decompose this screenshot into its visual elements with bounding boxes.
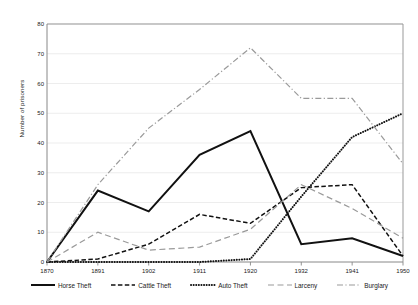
legend-label: Auto Theft [218, 282, 247, 289]
legend-swatch-dashdot [336, 281, 362, 289]
series-line-auto-theft [47, 113, 403, 262]
series-line-larceny [47, 185, 403, 262]
x-tick-label: 1950 [386, 268, 418, 274]
legend-label: Burglary [364, 282, 388, 289]
x-tick-label: 1941 [335, 268, 369, 274]
plot-area [0, 0, 418, 305]
legend-item-larceny[interactable]: Larceny [267, 281, 318, 289]
series-line-horse-theft [47, 131, 403, 262]
legend-label: Cattle Theft [138, 282, 171, 289]
legend-item-cattle-theft[interactable]: Cattle Theft [110, 281, 171, 289]
series-line-burglary [47, 48, 403, 262]
x-tick-label: 1911 [183, 268, 217, 274]
chart-legend: Horse TheftCattle TheftAuto TheftLarceny… [0, 277, 418, 293]
x-tick-label: 1891 [81, 268, 115, 274]
legend-item-horse-theft[interactable]: Horse Theft [30, 281, 91, 289]
legend-swatch-longdash [267, 281, 293, 289]
legend-swatch-dashed [110, 281, 136, 289]
legend-swatch-solid [30, 281, 56, 289]
legend-swatch-dotted [190, 281, 216, 289]
x-tick-label: 1870 [30, 268, 64, 274]
x-tick-label: 1902 [132, 268, 166, 274]
series-line-cattle-theft [47, 185, 403, 262]
x-tick-label: 1932 [284, 268, 318, 274]
legend-item-auto-theft[interactable]: Auto Theft [190, 281, 247, 289]
legend-item-burglary[interactable]: Burglary [336, 281, 388, 289]
legend-label: Larceny [295, 282, 318, 289]
line-chart: Number of prisoners 01020304050607080 Ho… [0, 0, 418, 305]
x-tick-label: 1920 [233, 268, 267, 274]
legend-label: Horse Theft [58, 282, 91, 289]
